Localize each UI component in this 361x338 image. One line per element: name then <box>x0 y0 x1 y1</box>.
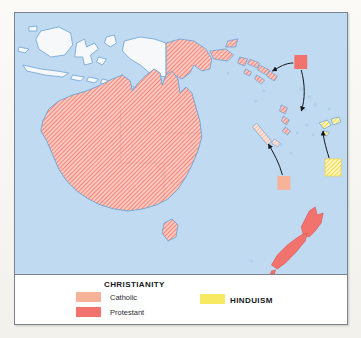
page-canvas: CHRISTIANITY Catholic Protestant HINDUIS… <box>0 0 361 338</box>
map-legend: CHRISTIANITY Catholic Protestant HINDUIS… <box>15 274 347 325</box>
map-svg <box>15 13 347 274</box>
callout-swatch-catholic[interactable] <box>277 176 290 190</box>
legend-item-protestant[interactable]: Protestant <box>76 307 144 317</box>
legend-label-catholic: Catholic <box>110 293 137 302</box>
map-viewport[interactable] <box>15 13 347 274</box>
legend-heading-hinduism: HINDUISM <box>230 296 273 305</box>
legend-label-protestant: Protestant <box>110 308 144 317</box>
map-figure-plate: CHRISTIANITY Catholic Protestant HINDUIS… <box>14 12 348 325</box>
callout-swatch-protestant[interactable] <box>294 55 307 69</box>
legend-item-catholic[interactable]: Catholic <box>76 292 137 302</box>
legend-item-hinduism[interactable] <box>200 294 225 304</box>
legend-swatch-hinduism <box>200 294 225 304</box>
legend-swatch-protestant <box>76 307 101 317</box>
legend-swatch-catholic <box>76 292 101 302</box>
callout-swatch-hinduism[interactable] <box>325 159 341 176</box>
legend-heading-christianity: CHRISTIANITY <box>104 280 165 289</box>
